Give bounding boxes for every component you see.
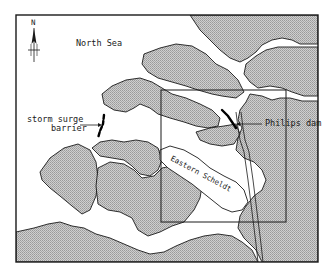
philips-dam-label: Philips dam xyxy=(265,118,321,128)
north-sea-label: North Sea xyxy=(76,38,122,48)
north-label: N xyxy=(31,18,36,27)
delta-map: N North Sea storm surge barrier Philips … xyxy=(0,0,335,275)
storm-surge-barrier-label-2: barrier xyxy=(51,123,87,133)
